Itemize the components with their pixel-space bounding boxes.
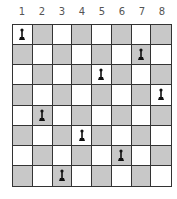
column-label: 8 xyxy=(152,5,172,19)
board-square xyxy=(92,25,112,45)
column-labels: 1 2 3 4 5 6 7 8 xyxy=(12,5,172,19)
pawn-icon xyxy=(38,109,46,122)
board-square xyxy=(132,65,152,85)
board-square xyxy=(92,45,112,65)
column-label: 6 xyxy=(112,5,132,19)
board-square xyxy=(151,146,171,166)
board-square xyxy=(132,126,152,146)
board-square xyxy=(112,85,132,105)
board-square xyxy=(33,25,53,45)
pawn-icon xyxy=(117,149,125,162)
pawn-icon xyxy=(137,48,145,61)
board-square xyxy=(132,85,152,105)
board-square xyxy=(92,166,112,186)
board-square xyxy=(33,146,53,166)
pawn-icon xyxy=(157,88,165,101)
board-square xyxy=(132,25,152,45)
board-square xyxy=(92,106,112,126)
board-square xyxy=(112,65,132,85)
board-square xyxy=(53,45,73,65)
board-square xyxy=(72,106,92,126)
board-square xyxy=(13,126,33,146)
board-square xyxy=(112,25,132,45)
board-square xyxy=(151,166,171,186)
board-square xyxy=(13,166,33,186)
board-square xyxy=(72,85,92,105)
board-square xyxy=(72,146,92,166)
pawn-icon xyxy=(58,169,66,182)
board-square xyxy=(151,25,171,45)
board-square xyxy=(151,126,171,146)
board-square xyxy=(13,45,33,65)
board-square xyxy=(53,25,73,45)
board-square xyxy=(112,45,132,65)
column-label: 3 xyxy=(52,5,72,19)
chess-board xyxy=(12,24,172,187)
column-label: 7 xyxy=(132,5,152,19)
board-square xyxy=(33,45,53,65)
pawn-icon xyxy=(97,68,105,81)
board-square xyxy=(33,126,53,146)
column-label: 4 xyxy=(72,5,92,19)
board-square xyxy=(132,166,152,186)
board-square xyxy=(92,65,112,85)
board-square xyxy=(151,85,171,105)
board-square xyxy=(72,25,92,45)
board-square xyxy=(72,166,92,186)
board-square xyxy=(112,146,132,166)
board-square xyxy=(33,85,53,105)
board-square xyxy=(132,106,152,126)
board-square xyxy=(112,166,132,186)
board-square xyxy=(92,85,112,105)
board-square xyxy=(53,146,73,166)
board-square xyxy=(53,65,73,85)
board-square xyxy=(72,65,92,85)
board-square xyxy=(53,85,73,105)
board-square xyxy=(151,65,171,85)
board-square xyxy=(33,166,53,186)
board-square xyxy=(72,126,92,146)
column-label: 2 xyxy=(32,5,52,19)
pawn-icon xyxy=(18,28,26,41)
board-square xyxy=(13,106,33,126)
board-square xyxy=(33,106,53,126)
board-square xyxy=(132,146,152,166)
board-square xyxy=(112,106,132,126)
board-square xyxy=(72,45,92,65)
board-square xyxy=(151,45,171,65)
board-square xyxy=(92,126,112,146)
board-square xyxy=(132,45,152,65)
board-square xyxy=(13,85,33,105)
board-square xyxy=(53,126,73,146)
board-square xyxy=(53,106,73,126)
board-square xyxy=(92,146,112,166)
board-square xyxy=(13,65,33,85)
board-square xyxy=(53,166,73,186)
board-square xyxy=(33,65,53,85)
pawn-icon xyxy=(78,129,86,142)
column-label: 5 xyxy=(92,5,112,19)
board-square xyxy=(13,25,33,45)
board-square xyxy=(112,126,132,146)
board-square xyxy=(151,106,171,126)
column-label: 1 xyxy=(12,5,32,19)
board-square xyxy=(13,146,33,166)
